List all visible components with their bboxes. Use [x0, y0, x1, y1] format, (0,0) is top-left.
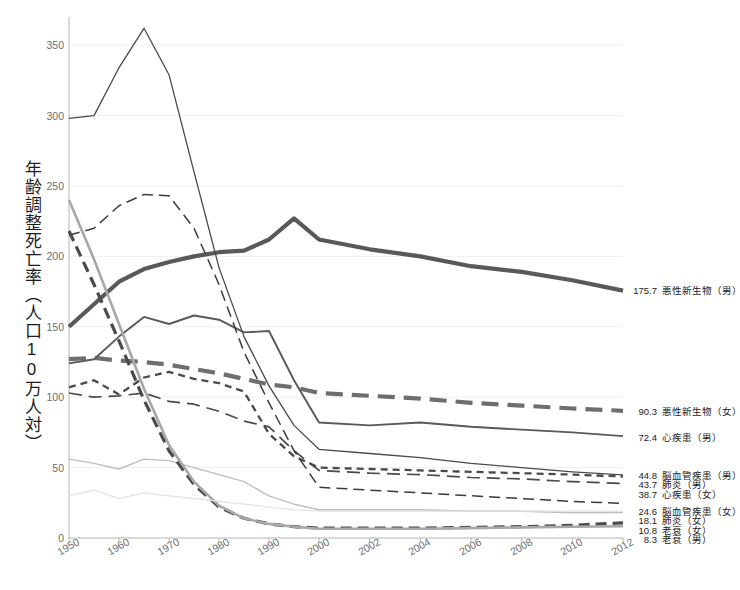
series-end-label: 175.7悪性新生物（男） — [631, 283, 740, 297]
series-name: 心疾患（女） — [662, 489, 722, 500]
series-end-value: 72.4 — [631, 432, 657, 443]
series-end-value: 8.3 — [631, 534, 657, 545]
series-end-label: 72.4心疾患（男） — [631, 430, 722, 444]
series-end-label: 38.7心疾患（女） — [631, 487, 722, 501]
series-end-label: 8.3老衰（男） — [631, 532, 712, 546]
series-end-label: 90.3悪性新生物（女） — [631, 404, 740, 418]
series-name: 悪性新生物（女） — [662, 406, 740, 417]
series-end-value: 175.7 — [631, 285, 657, 296]
series-end-value: 90.3 — [631, 406, 657, 417]
series-name: 心疾患（男） — [662, 432, 722, 443]
series-end-value: 38.7 — [631, 489, 657, 500]
series-name: 老衰（男） — [662, 534, 712, 545]
series-name: 悪性新生物（男） — [662, 285, 740, 296]
